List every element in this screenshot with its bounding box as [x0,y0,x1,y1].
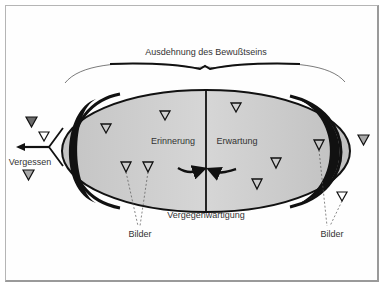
presentation-label: Vergegenwärtigung [167,210,245,220]
images-label-left: Bilder [128,229,151,239]
title-label: Ausdehnung des Bewußtseins [145,47,267,57]
brace-icon [65,63,345,83]
consciousness-ellipse [62,90,350,212]
images-label-right: Bilder [320,229,343,239]
expectation-label: Erwartung [216,136,257,146]
forgetting-label: Vergessen [9,157,52,167]
memory-label: Erinnerung [151,136,195,146]
